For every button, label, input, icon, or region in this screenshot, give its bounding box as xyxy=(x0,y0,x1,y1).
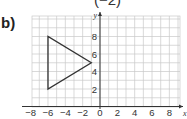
x-tick-label: −6 xyxy=(43,107,54,118)
x-tick-label: 4 xyxy=(132,107,137,118)
x-tick-label: 2 xyxy=(115,107,120,118)
y-tick-label: 2 xyxy=(92,84,97,95)
coordinate-grid: −8−6−4−2024682468yx xyxy=(0,0,187,119)
x-tick-label: −2 xyxy=(77,107,88,118)
y-axis-label: y xyxy=(92,11,97,20)
x-axis-label: x xyxy=(182,109,187,118)
y-tick-label: 4 xyxy=(92,66,97,77)
grid-border xyxy=(32,16,180,107)
x-tick-label: −8 xyxy=(25,107,36,118)
x-tick-label: 8 xyxy=(167,107,172,118)
x-tick-label: −4 xyxy=(60,107,71,118)
x-tick-label: 0 xyxy=(97,107,102,118)
axes xyxy=(22,12,183,109)
x-axis-arrow-icon xyxy=(179,105,183,109)
y-axis-arrow-icon xyxy=(98,12,102,16)
y-tick-label: 6 xyxy=(92,49,97,60)
x-tick-label: 6 xyxy=(149,107,154,118)
tick-labels: −8−6−4−2024682468yx xyxy=(25,11,187,118)
y-tick-label: 8 xyxy=(92,31,97,42)
grid-lines xyxy=(32,16,180,107)
